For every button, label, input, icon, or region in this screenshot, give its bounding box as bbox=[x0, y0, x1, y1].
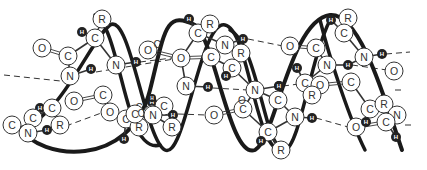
oxygen-atom: O bbox=[65, 92, 83, 110]
carbon-atom: C bbox=[307, 39, 325, 57]
atom-label: H bbox=[259, 138, 263, 144]
atom-label: N bbox=[251, 84, 259, 96]
nitrogen-atom: N bbox=[216, 36, 234, 54]
atoms-layer: OCNHRHCNHOCOHCRNHCRCHNHCOCHCCNHROCCRHHNC… bbox=[3, 9, 406, 159]
atom-label: O bbox=[70, 95, 78, 107]
atom-label: O bbox=[106, 106, 114, 118]
atom-label: N bbox=[112, 59, 120, 71]
atom-label: O bbox=[210, 109, 218, 121]
nitrogen-atom: N bbox=[19, 124, 37, 142]
nitrogen-atom: N bbox=[144, 106, 162, 124]
carbon-atom: C bbox=[86, 29, 104, 47]
atom-label: C bbox=[99, 89, 107, 101]
atom-label: C bbox=[29, 112, 37, 124]
atom-label: R bbox=[308, 89, 316, 101]
hydrogen-bond bbox=[66, 112, 104, 126]
atom-label: H bbox=[134, 59, 138, 65]
atom-label: C bbox=[160, 100, 168, 112]
atom-label: N bbox=[323, 59, 331, 71]
oxygen-atom: O bbox=[281, 37, 299, 55]
oxygen-atom: O bbox=[205, 106, 223, 124]
atom-label: C bbox=[382, 116, 390, 128]
atom-label: C bbox=[48, 102, 56, 114]
side-chain-atom: R bbox=[93, 10, 111, 28]
atom-label: O bbox=[144, 44, 152, 56]
atom-label: C bbox=[207, 51, 215, 63]
atom-label: C bbox=[340, 27, 348, 39]
atom-label: C bbox=[194, 27, 202, 39]
atom-label: C bbox=[8, 119, 16, 131]
atom-label: N bbox=[221, 39, 229, 51]
nitrogen-atom: N bbox=[286, 108, 304, 126]
atom-label: R bbox=[237, 47, 245, 59]
hydrogen-atom: H bbox=[238, 34, 248, 44]
atom-label: N bbox=[291, 111, 299, 123]
atom-label: R bbox=[56, 119, 64, 131]
carbon-atom: C bbox=[137, 108, 144, 119]
atom-label: H bbox=[277, 83, 281, 89]
atom-label: N bbox=[149, 109, 157, 121]
hydrogen-atom: H bbox=[361, 117, 371, 127]
atom-label: H bbox=[38, 105, 42, 111]
hydrogen-atom: H bbox=[292, 63, 302, 73]
nitrogen-atom: N bbox=[355, 48, 373, 66]
atom-label: N bbox=[24, 127, 32, 139]
hydrogen-bond bbox=[386, 52, 410, 54]
atom-label: N bbox=[182, 80, 190, 92]
atom-label: R bbox=[380, 98, 388, 110]
atom-label: H bbox=[150, 96, 154, 101]
carbon-atom: C bbox=[59, 47, 77, 65]
atom-label: C bbox=[228, 62, 236, 74]
side-chain-atom: R bbox=[303, 86, 321, 104]
atom-label: R bbox=[344, 12, 352, 24]
hydrogen-atom: H bbox=[221, 71, 231, 81]
hydrogen-atom: H bbox=[326, 15, 336, 25]
nitrogen-atom: N bbox=[318, 56, 336, 74]
hydrogen-atom: H bbox=[119, 134, 129, 144]
oxygen-atom: O bbox=[101, 103, 119, 121]
hydrogen-atom: H bbox=[274, 81, 284, 91]
carbon-atom: C bbox=[269, 91, 287, 109]
hydrogen-atom: H bbox=[148, 94, 156, 102]
atom-label: H bbox=[241, 36, 245, 42]
atom-label: N bbox=[66, 70, 74, 82]
side-chain-atom: R bbox=[201, 15, 219, 33]
side-chain-atom: R bbox=[272, 141, 290, 159]
carbon-atom: C bbox=[335, 24, 353, 42]
atom-label: C bbox=[274, 94, 282, 106]
atom-label: R bbox=[206, 18, 214, 30]
atom-label: H bbox=[380, 51, 384, 57]
oxygen-atom: O bbox=[385, 62, 403, 80]
oxygen-atom: O bbox=[172, 49, 190, 67]
hydrogen-atom: H bbox=[131, 57, 141, 67]
atom-label: O bbox=[177, 52, 185, 64]
hydrogen-atom: H bbox=[77, 27, 87, 37]
hydrogen-atom: H bbox=[203, 82, 213, 92]
hydrogen-bond bbox=[178, 114, 206, 115]
nitrogen-atom: N bbox=[107, 56, 125, 74]
atom-label: H bbox=[364, 119, 368, 125]
atom-label: C bbox=[137, 108, 144, 119]
carbon-atom: C bbox=[43, 99, 61, 117]
side-chain-atom: R bbox=[163, 118, 181, 136]
atom-label: C bbox=[91, 32, 99, 44]
hydrogen-atom: H bbox=[42, 125, 52, 135]
nitrogen-atom: N bbox=[61, 67, 79, 85]
oxygen-atom: O bbox=[238, 95, 246, 106]
atom-label: H bbox=[122, 136, 126, 142]
hydrogen-atom: H bbox=[343, 60, 353, 70]
atom-label: N bbox=[360, 51, 368, 63]
carbon-atom: C bbox=[153, 39, 160, 50]
atom-label: H bbox=[187, 16, 191, 22]
atom-label: H bbox=[329, 17, 333, 23]
hydrogen-atom: H bbox=[256, 136, 266, 146]
atom-label: O bbox=[38, 42, 46, 54]
hydrogen-atom: H bbox=[307, 113, 317, 123]
hydrogen-bond bbox=[316, 118, 348, 127]
nitrogen-atom: N bbox=[177, 77, 195, 95]
atom-label: H bbox=[295, 65, 299, 71]
atom-label: O bbox=[390, 65, 398, 77]
hydrogen-atom: H bbox=[391, 132, 401, 142]
atom-label: O bbox=[286, 40, 294, 52]
atom-label: R bbox=[277, 144, 285, 156]
